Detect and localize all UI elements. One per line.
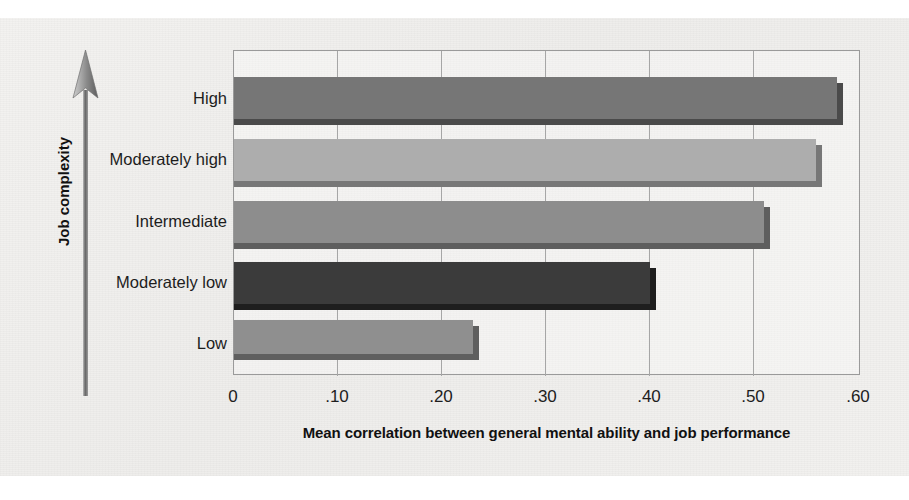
bar-shadow-bottom: [234, 243, 764, 249]
bar-face: [234, 262, 650, 304]
cat-label-low: Low: [0, 334, 227, 353]
bar-shadow-right: [473, 326, 479, 360]
tick-label-20: .20: [429, 387, 453, 407]
x-axis-tick-labels: 0 .10 .20 .30 .40 .50 .60: [0, 387, 909, 413]
bar-shadow-right: [816, 145, 822, 187]
tick-label-0: 0: [228, 387, 237, 407]
cat-label-high: High: [0, 89, 227, 108]
bar-moderately-low: [234, 262, 650, 304]
bar-face: [234, 77, 837, 119]
tick-label-40: .40: [637, 387, 661, 407]
cat-label-moderately-low: Moderately low: [0, 273, 227, 292]
tick-label-30: .30: [533, 387, 557, 407]
bar-shadow-right: [837, 83, 843, 125]
bar-low: [234, 320, 473, 354]
bar-shadow-bottom: [234, 354, 473, 360]
tick-label-50: .50: [741, 387, 765, 407]
bar-face: [234, 201, 764, 243]
bar-shadow-bottom: [234, 181, 816, 187]
bar-moderately-high: [234, 139, 816, 181]
bar-shadow-right: [764, 207, 770, 249]
y-axis-category-labels: High Moderately high Intermediate Modera…: [0, 0, 227, 500]
bar-high: [234, 77, 837, 119]
bar-shadow-bottom: [234, 304, 650, 310]
bar-face: [234, 139, 816, 181]
bar-shadow-right: [650, 268, 656, 310]
bar-shadow-bottom: [234, 119, 837, 125]
figure-canvas: Job complexity High Moderately high Inte…: [0, 0, 909, 500]
bar-face: [234, 320, 473, 354]
bar-intermediate: [234, 201, 764, 243]
tick-label-10: .10: [325, 387, 349, 407]
cat-label-moderately-high: Moderately high: [0, 150, 227, 169]
cat-label-intermediate: Intermediate: [0, 212, 227, 231]
x-axis-title: Mean correlation between general mental …: [233, 424, 860, 441]
tick-label-60: .60: [846, 387, 870, 407]
